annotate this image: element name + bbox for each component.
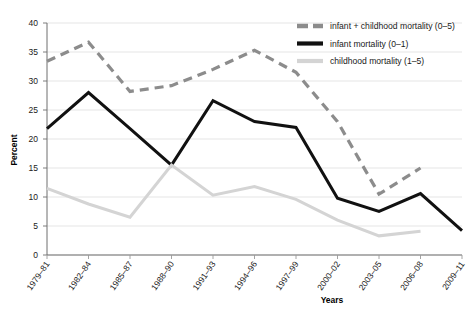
y-axis-title: Percent — [9, 134, 19, 165]
x-tick-label: 1997–99 — [273, 259, 300, 292]
line-chart: 0510152025303540 1979–811982–841985–8719… — [0, 0, 466, 327]
chart-legend: infant + childhood mortality (0–5)infant… — [297, 21, 455, 66]
legend-label-1: infant mortality (0–1) — [330, 39, 408, 49]
x-axis-tick-labels: 1979–811982–841985–871988–901991–931994–… — [24, 259, 466, 292]
x-tick-label: 1988–90 — [149, 259, 176, 292]
y-tick-label: 0 — [33, 250, 38, 260]
legend-label-2: childhood mortality (1–5) — [330, 56, 424, 66]
series-line-2 — [47, 165, 421, 236]
x-tick-label: 1979–81 — [24, 259, 51, 292]
x-tick-label: 1985–87 — [107, 259, 134, 292]
legend-label-0: infant + childhood mortality (0–5) — [330, 21, 455, 31]
y-tick-label: 30 — [29, 76, 39, 86]
x-tick-label: 1982–84 — [66, 259, 93, 292]
x-tick-label: 2000–02 — [315, 259, 342, 292]
x-tick-label: 2006–08 — [398, 259, 425, 292]
y-axis-tick-labels: 0510152025303540 — [29, 18, 47, 260]
y-tick-label: 5 — [33, 221, 38, 231]
y-tick-label: 15 — [29, 163, 39, 173]
chart-container: 0510152025303540 1979–811982–841985–8719… — [0, 0, 466, 327]
y-tick-label: 25 — [29, 105, 39, 115]
x-tick-label: 1994–96 — [232, 259, 259, 292]
y-tick-label: 35 — [29, 47, 39, 57]
x-axis-title: Years — [321, 295, 344, 305]
x-tick-label: 1991–93 — [190, 259, 217, 292]
y-tick-label: 10 — [29, 192, 39, 202]
y-tick-label: 40 — [29, 18, 39, 28]
x-tick-label: 2003–05 — [356, 259, 383, 292]
x-tick-label: 2009–11 — [440, 259, 466, 292]
x-axis-tick-marks — [47, 255, 462, 259]
y-tick-label: 20 — [29, 134, 39, 144]
